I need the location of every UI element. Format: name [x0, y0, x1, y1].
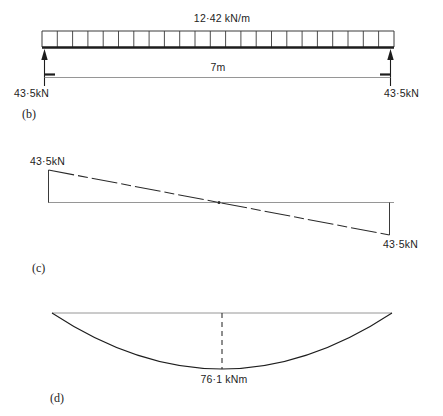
sfd-zero-crossing-point	[217, 201, 220, 204]
left-reaction-arrow	[41, 49, 47, 86]
load-diagram-group	[41, 31, 394, 86]
left-reaction-label: 43·5kN	[14, 88, 49, 99]
udl-magnitude-label: 12·42 kN/m	[194, 13, 250, 24]
shear-left-label: 43·5kN	[30, 156, 65, 167]
panel-tag-c: (c)	[32, 262, 45, 274]
panel-tag-d: (d)	[50, 392, 64, 404]
udl-hatch-lines	[57, 31, 378, 47]
shear-right-label: 43·5kN	[383, 239, 418, 250]
right-reaction-label: 43·5kN	[384, 88, 419, 99]
structural-figure: 12·42 kN/m 7m 43·5kN 43·5kN (b) 43·5kN 4…	[0, 0, 443, 416]
span-dimension-line	[45, 75, 391, 78]
shear-force-diagram-group	[48, 170, 394, 235]
right-reaction-arrow	[387, 49, 393, 86]
bending-moment-diagram-group	[52, 313, 392, 369]
max-moment-label: 76·1 kNm	[200, 374, 247, 385]
span-dimension-label: 7m	[211, 62, 226, 73]
panel-tag-b: (b)	[22, 108, 36, 120]
